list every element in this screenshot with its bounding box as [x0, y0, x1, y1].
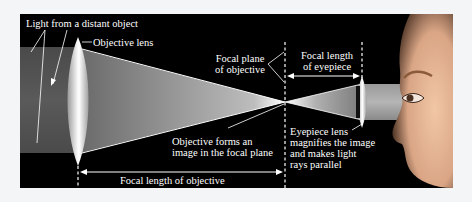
parallel-beam [362, 84, 404, 120]
telescope-diagram: Light from a distant object Objective le… [0, 0, 472, 202]
iris [407, 95, 414, 102]
diagram-canvas [0, 0, 472, 202]
label-objective-forms: Objective forms an image in the focal pl… [172, 136, 273, 158]
label-focal-length-objective: Focal length of objective [120, 175, 225, 186]
label-eyepiece-lens-line1: Eyepiece lens [290, 126, 375, 137]
label-focal-length-eyepiece-line1: Focal length [296, 50, 358, 61]
label-focal-plane: Focal plane of objective [212, 53, 268, 75]
label-eyepiece-lens: Eyepiece lens magnifies the image and ma… [290, 126, 375, 170]
label-objective-forms-line1: Objective forms an [172, 136, 273, 147]
eyepiece-shadow [356, 86, 360, 118]
label-eyepiece-lens-line2: magnifies the image [290, 137, 375, 148]
label-focal-length-eyepiece-line2: of eyepiece [296, 61, 358, 72]
label-focal-plane-line1: Focal plane [212, 53, 268, 64]
label-objective-forms-line2: image in the focal plane [172, 147, 273, 158]
label-objective-lens: Objective lens [93, 37, 153, 48]
label-focal-length-eyepiece: Focal length of eyepiece [296, 50, 358, 72]
label-eyepiece-lens-line4: rays parallel [290, 159, 375, 170]
label-focal-plane-line2: of objective [212, 64, 268, 75]
label-eyepiece-lens-line3: and makes light [290, 148, 375, 159]
label-light-source: Light from a distant object [26, 18, 138, 29]
